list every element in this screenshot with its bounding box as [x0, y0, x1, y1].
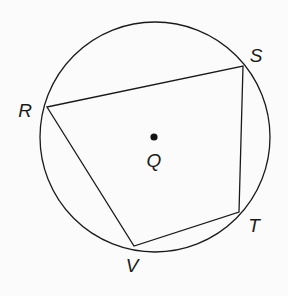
- label-t: T: [248, 215, 261, 236]
- label-r: R: [18, 100, 32, 121]
- label-q: Q: [147, 150, 162, 171]
- label-s: S: [250, 45, 263, 66]
- geometry-figure: Q S T V R: [0, 0, 288, 296]
- diagram-canvas: Q S T V R: [0, 0, 288, 296]
- label-v: V: [126, 255, 141, 276]
- quadrilateral-rstv: [47, 66, 243, 246]
- center-point-q: [150, 133, 157, 140]
